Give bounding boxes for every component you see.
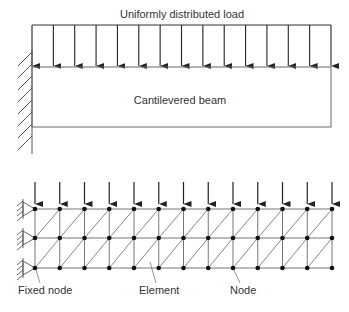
mesh-node [181, 266, 186, 271]
mesh-node [280, 266, 285, 271]
mesh-node [231, 266, 236, 271]
mesh-node [82, 236, 87, 241]
load-title: Uniformly distributed load [0, 9, 349, 20]
mesh-node [57, 207, 62, 212]
mesh-node [33, 207, 38, 212]
mesh-node [330, 266, 335, 271]
node-label: Node [230, 285, 256, 296]
mesh-node [206, 266, 211, 271]
mesh-node [107, 236, 112, 241]
mesh-node [280, 207, 285, 212]
mesh-node [181, 236, 186, 241]
mesh-node [206, 236, 211, 241]
mesh-node [156, 266, 161, 271]
mesh-node [57, 236, 62, 241]
mesh-node [330, 236, 335, 241]
finite-element-mesh [17, 182, 334, 280]
mesh-node [33, 236, 38, 241]
mesh-node [156, 207, 161, 212]
element-label: Element [139, 285, 179, 296]
fixed-node-support [17, 258, 35, 280]
mesh-node [305, 266, 310, 271]
mesh-node [156, 236, 161, 241]
fixed-node-support [17, 199, 35, 221]
distributed-load-arrows [32, 25, 331, 66]
leader-lines [36, 262, 240, 283]
mesh-node [280, 236, 285, 241]
mesh-node [57, 266, 62, 271]
mesh-node [255, 236, 260, 241]
fixed-node-label: Fixed node [18, 285, 72, 296]
mesh-node [132, 236, 137, 241]
mesh-node [33, 266, 38, 271]
mesh-node [231, 207, 236, 212]
mesh-node [255, 207, 260, 212]
mesh-node [82, 266, 87, 271]
mesh-node [255, 266, 260, 271]
fem-diagram [0, 0, 349, 312]
mesh-node [82, 207, 87, 212]
mesh-node [107, 266, 112, 271]
fixed-node-support [17, 228, 35, 250]
mesh-node [181, 207, 186, 212]
mesh-node [305, 236, 310, 241]
mesh-node [107, 207, 112, 212]
mesh-node [132, 266, 137, 271]
mesh-node [231, 236, 236, 241]
mesh-node [330, 207, 335, 212]
mesh-node [305, 207, 310, 212]
mesh-node [206, 207, 211, 212]
beam-label: Cantilevered beam [0, 95, 349, 106]
mesh-node [132, 207, 137, 212]
